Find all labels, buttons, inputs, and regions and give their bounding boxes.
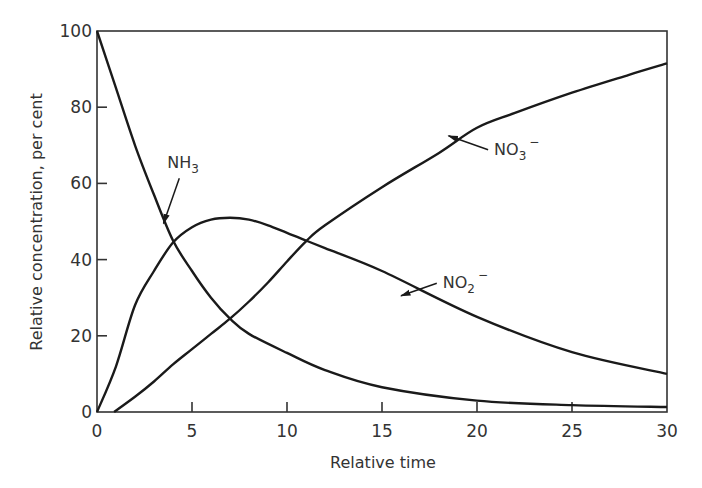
series-label-nh3: NH3	[167, 153, 199, 176]
y-tick-label: 80	[70, 97, 92, 117]
annotation-arrow-icon	[164, 178, 180, 223]
curve-no3	[114, 63, 667, 412]
x-axis-ticks: 051015202530	[92, 402, 678, 441]
x-tick-label: 0	[92, 421, 103, 441]
series-label-no2: NO2−	[443, 268, 488, 296]
x-tick-label: 30	[656, 421, 678, 441]
x-tick-label: 5	[187, 421, 198, 441]
series-annotations: NH3NO3−NO2−	[164, 135, 540, 296]
y-axis-title: Relative concentration, per cent	[27, 93, 46, 350]
curve-no2	[97, 218, 667, 412]
y-axis-ticks: 020406080100	[60, 21, 107, 422]
y-tick-label: 60	[70, 173, 92, 193]
y-tick-label: 40	[70, 250, 92, 270]
x-tick-label: 15	[371, 421, 393, 441]
x-tick-label: 10	[276, 421, 298, 441]
curve-nh3	[97, 31, 667, 407]
x-tick-label: 25	[561, 421, 583, 441]
y-tick-label: 20	[70, 326, 92, 346]
x-tick-label: 20	[466, 421, 488, 441]
series-curves	[97, 31, 667, 412]
chart: 051015202530 020406080100 NH3NO3−NO2− Re…	[0, 0, 702, 488]
x-axis-title: Relative time	[330, 453, 436, 472]
annotation-arrow-icon	[401, 283, 437, 296]
y-tick-label: 0	[81, 402, 92, 422]
series-label-no3: NO3−	[494, 135, 539, 163]
y-tick-label: 100	[60, 21, 92, 41]
